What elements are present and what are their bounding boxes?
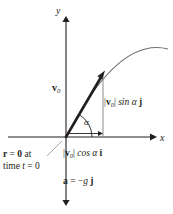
horizontal-component-unit-vector: i xyxy=(97,148,102,158)
time-value: = 0 xyxy=(25,161,40,171)
initial-velocity-subscript: 0 xyxy=(57,87,60,94)
initial-velocity-label: v0 xyxy=(52,83,60,95)
trajectory-curve xyxy=(66,48,168,137)
initial-position-annotation-line1: r = 0 at xyxy=(3,150,31,160)
horizontal-component-trig: cos xyxy=(75,148,92,158)
y-axis-arrowhead-top xyxy=(62,16,69,22)
acceleration-unit-vector: j xyxy=(88,176,94,186)
vertical-component-label: |v0| sin α j xyxy=(104,98,142,108)
initial-velocity-shaft xyxy=(66,78,101,137)
acceleration-annotation: a = −g j xyxy=(63,177,94,187)
x-axis-arrowhead xyxy=(150,133,157,140)
projectile-motion-figure: y x v0 α |v0| sin α j |v0| cos α i r = 0… xyxy=(0,0,173,214)
position-equals-sign: = xyxy=(7,149,17,159)
vertical-component-unit-vector: j xyxy=(137,97,143,107)
x-axis-label: x xyxy=(160,133,164,143)
vertical-component-trig: sin xyxy=(116,97,132,107)
y-axis-label: y xyxy=(56,6,60,16)
time-word: time xyxy=(3,161,22,171)
horizontal-component-arrowhead xyxy=(98,131,103,136)
initial-position-leader-line xyxy=(47,141,62,156)
horizontal-component-label: |v0| cos α i xyxy=(63,149,102,159)
initial-position-annotation-line2: time t = 0 xyxy=(3,162,40,172)
position-at-word: at xyxy=(22,149,31,159)
y-axis-arrowhead-bottom xyxy=(62,200,69,206)
acceleration-equals-sign: = − xyxy=(68,176,83,186)
angle-label: α xyxy=(84,118,89,127)
